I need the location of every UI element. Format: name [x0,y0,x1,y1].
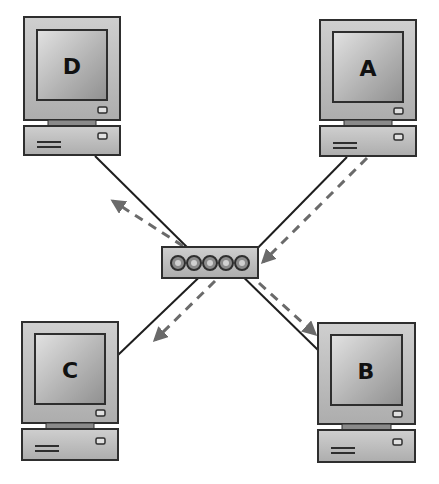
power-button-icon [394,108,403,114]
computer-b: B [318,323,415,462]
system-unit [24,126,120,155]
power-button-icon [98,107,107,113]
network-diagram: D A C B [0,0,439,484]
computer-label: D [63,54,81,79]
system-unit [320,126,416,156]
computer-label: B [358,359,375,384]
computer-label: A [359,56,376,81]
led-icon [393,439,402,445]
led-icon [394,134,403,140]
traffic-arrow-a-to-switch [263,158,367,262]
computer-a: A [320,20,416,156]
switch-port-1 [171,256,185,270]
led-icon [96,438,105,444]
switch-port-2 [187,256,201,270]
computer-d: D [24,17,120,155]
switch-port-3 [203,256,217,270]
switch-port-4 [219,256,233,270]
led-icon [98,133,107,139]
power-button-icon [393,411,402,417]
power-button-icon [96,410,105,416]
system-unit [318,430,415,462]
computer-label: C [62,358,78,383]
switch-port-5 [235,256,249,270]
computer-c: C [22,322,118,460]
network-switch [162,247,258,278]
traffic-arrow-switch-to-b [259,283,315,334]
switch-ports [171,256,249,270]
